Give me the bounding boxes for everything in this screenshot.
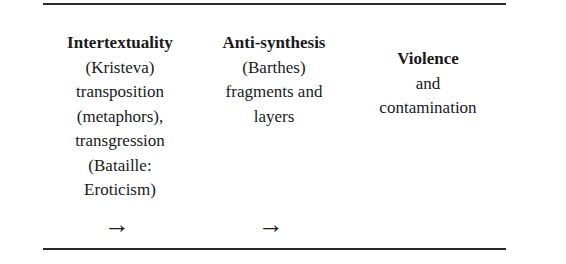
column-line: and bbox=[358, 72, 498, 97]
column-line: contamination bbox=[358, 96, 498, 121]
column-title: Violence bbox=[358, 47, 498, 72]
column-line: Eroticism) bbox=[50, 178, 190, 203]
right-arrow-icon: → bbox=[104, 212, 130, 238]
top-rule bbox=[43, 3, 506, 5]
column-line: (Kristeva) bbox=[50, 56, 190, 81]
column-line: (Bataille: bbox=[50, 154, 190, 179]
column-title: Anti-synthesis bbox=[204, 31, 344, 56]
column-anti-synthesis: Anti-synthesis (Barthes) fragments and l… bbox=[204, 31, 344, 129]
column-line: (metaphors), bbox=[50, 105, 190, 130]
column-line: layers bbox=[204, 105, 344, 130]
column-line: fragments and bbox=[204, 80, 344, 105]
column-line: (Barthes) bbox=[204, 56, 344, 81]
column-line: transgression bbox=[50, 129, 190, 154]
column-violence: Violence and contamination bbox=[358, 47, 498, 121]
column-title: Intertextuality bbox=[50, 31, 190, 56]
column-intertextuality: Intertextuality (Kristeva) transposition… bbox=[50, 31, 190, 203]
bottom-rule bbox=[43, 248, 506, 250]
column-line: transposition bbox=[50, 80, 190, 105]
right-arrow-icon: → bbox=[258, 212, 284, 238]
